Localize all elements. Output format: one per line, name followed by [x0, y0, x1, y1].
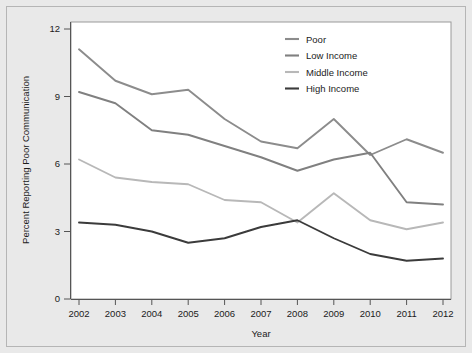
y-tick-label: 3 — [55, 226, 60, 237]
x-tick-label: 2005 — [178, 308, 199, 319]
line-chart-svg: 036912 200220032004200520062007200820092… — [7, 7, 465, 346]
y-tick-label: 6 — [55, 158, 60, 169]
x-tick-label: 2008 — [287, 308, 308, 319]
x-tick-label: 2009 — [323, 308, 344, 319]
y-tick-label: 9 — [55, 91, 60, 102]
legend-label-middle-income: Middle Income — [306, 67, 368, 78]
x-tick-label: 2011 — [396, 308, 416, 319]
x-axis-title: Year — [251, 328, 270, 339]
y-axis-title: Percent Reporting Poor Communication — [20, 76, 31, 244]
y-axis-tick-labels: 036912 — [49, 23, 60, 304]
legend-label-poor: Poor — [306, 34, 326, 45]
x-tick-label: 2012 — [432, 308, 453, 319]
x-tick-label: 2006 — [214, 308, 235, 319]
x-axis-ticks — [79, 300, 443, 306]
chart-figure: 036912 200220032004200520062007200820092… — [0, 0, 472, 353]
chart-figure-inner: 036912 200220032004200520062007200820092… — [6, 6, 466, 347]
legend-label-low-income: Low Income — [306, 50, 357, 61]
y-tick-label: 12 — [49, 23, 60, 34]
legend-label-high-income: High Income — [306, 83, 359, 94]
x-tick-label: 2003 — [105, 308, 126, 319]
y-axis-ticks — [64, 29, 71, 299]
y-tick-label: 0 — [55, 293, 60, 304]
x-tick-label: 2010 — [360, 308, 381, 319]
x-tick-label: 2007 — [250, 308, 271, 319]
x-axis-tick-labels: 2002200320042005200620072008200920102011… — [68, 308, 453, 319]
x-tick-label: 2004 — [141, 308, 162, 319]
x-tick-label: 2002 — [68, 308, 89, 319]
